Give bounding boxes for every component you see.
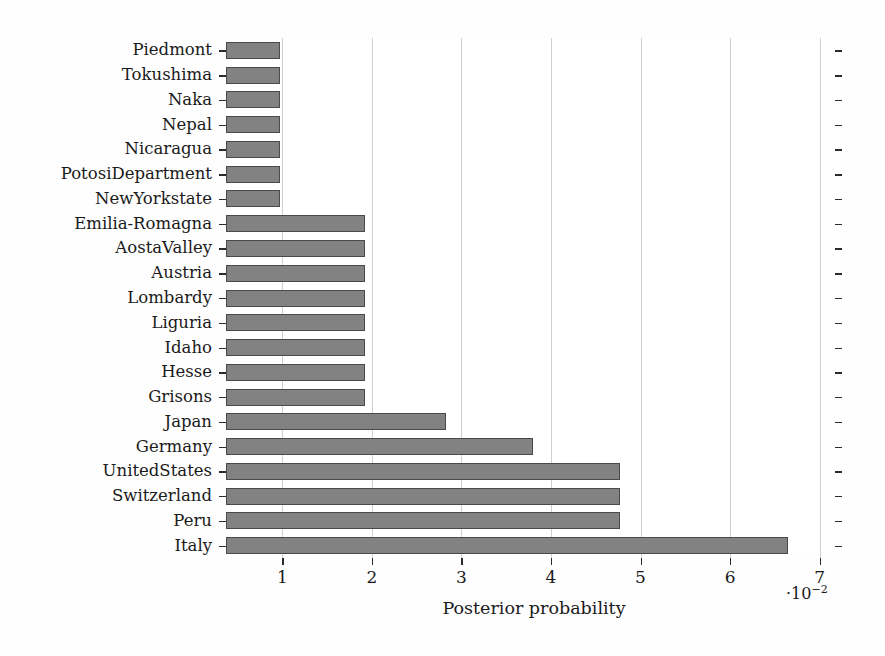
y-tick-label: NewYorkstate bbox=[95, 190, 212, 207]
y-tick-mark bbox=[219, 496, 226, 497]
y-tick-mark bbox=[219, 100, 226, 101]
x-axis-exponent-label: ·10−2 bbox=[786, 583, 828, 603]
y-tick-label: Italy bbox=[174, 537, 212, 554]
right-tick-mark bbox=[835, 125, 842, 126]
y-tick-mark bbox=[219, 447, 226, 448]
y-tick-label: Nepal bbox=[162, 116, 212, 133]
x-tick-label: 6 bbox=[725, 567, 736, 587]
y-axis-labels: PiedmontTokushimaNakaNepalNicaraguaPotos… bbox=[0, 38, 212, 558]
y-tick-mark bbox=[219, 50, 226, 51]
y-tick-label: UnitedStates bbox=[103, 462, 212, 479]
y-tick-label: Japan bbox=[165, 413, 212, 430]
right-tick-mark bbox=[835, 298, 842, 299]
y-tick-mark bbox=[219, 372, 226, 373]
y-tick-mark bbox=[219, 471, 226, 472]
y-tick-mark bbox=[219, 323, 226, 324]
y-tick-mark bbox=[219, 248, 226, 249]
y-tick-mark bbox=[219, 422, 226, 423]
right-tick-mark bbox=[835, 75, 842, 76]
x-tick-label: 2 bbox=[367, 567, 378, 587]
x-tick-label: 3 bbox=[456, 567, 467, 587]
x-tick-mark bbox=[820, 558, 821, 565]
y-tick-label: Nicaragua bbox=[124, 140, 212, 157]
right-tick-mark bbox=[835, 199, 842, 200]
y-tick-mark bbox=[219, 521, 226, 522]
right-tick-mark bbox=[835, 496, 842, 497]
right-tick-mark bbox=[835, 248, 842, 249]
y-tick-label: Germany bbox=[136, 438, 212, 455]
y-tick-mark bbox=[219, 174, 226, 175]
right-tick-mark bbox=[835, 50, 842, 51]
right-tick-mark bbox=[835, 372, 842, 373]
x-tick-mark bbox=[372, 558, 373, 565]
right-tick-mark bbox=[835, 348, 842, 349]
y-tick-label: Lombardy bbox=[127, 289, 212, 306]
y-tick-mark bbox=[219, 397, 226, 398]
x-tick-mark bbox=[461, 558, 462, 565]
y-tick-label: Tokushima bbox=[122, 66, 212, 83]
right-tick-mark bbox=[835, 174, 842, 175]
y-tick-label: AostaValley bbox=[115, 239, 212, 256]
y-tick-label: Hesse bbox=[161, 363, 212, 380]
x-axis-label: Posterior probability bbox=[226, 598, 842, 618]
y-tick-label: Austria bbox=[151, 264, 212, 281]
right-axis-tick-marks bbox=[226, 38, 842, 558]
y-tick-mark bbox=[219, 348, 226, 349]
right-tick-mark bbox=[835, 100, 842, 101]
x-tick-mark bbox=[641, 558, 642, 565]
right-tick-mark bbox=[835, 397, 842, 398]
right-tick-mark bbox=[835, 273, 842, 274]
y-tick-mark bbox=[219, 199, 226, 200]
y-tick-mark bbox=[219, 224, 226, 225]
right-tick-mark bbox=[835, 149, 842, 150]
right-tick-mark bbox=[835, 447, 842, 448]
y-tick-label: Grisons bbox=[148, 388, 212, 405]
y-tick-label: PotosiDepartment bbox=[61, 165, 212, 182]
y-tick-mark bbox=[219, 273, 226, 274]
right-tick-mark bbox=[835, 422, 842, 423]
right-tick-mark bbox=[835, 546, 842, 547]
bar-chart-figure: PiedmontTokushimaNakaNepalNicaraguaPotos… bbox=[0, 0, 885, 656]
exponent-base: ·10 bbox=[786, 584, 811, 603]
y-tick-label: Switzerland bbox=[112, 487, 212, 504]
x-tick-mark bbox=[282, 558, 283, 565]
y-tick-mark bbox=[219, 125, 226, 126]
y-tick-label: Liguria bbox=[152, 314, 212, 331]
right-tick-mark bbox=[835, 521, 842, 522]
x-tick-mark bbox=[551, 558, 552, 565]
y-tick-mark bbox=[219, 149, 226, 150]
right-tick-mark bbox=[835, 224, 842, 225]
right-tick-mark bbox=[835, 471, 842, 472]
x-tick-label: 1 bbox=[277, 567, 288, 587]
x-tick-label: 4 bbox=[546, 567, 557, 587]
x-tick-label: 5 bbox=[635, 567, 646, 587]
y-tick-label: Naka bbox=[168, 91, 212, 108]
right-tick-mark bbox=[835, 323, 842, 324]
y-tick-label: Emilia-Romagna bbox=[74, 215, 212, 232]
y-tick-mark bbox=[219, 546, 226, 547]
y-tick-label: Piedmont bbox=[132, 41, 212, 58]
y-tick-mark bbox=[219, 298, 226, 299]
y-tick-label: Peru bbox=[173, 512, 212, 529]
y-tick-mark bbox=[219, 75, 226, 76]
x-tick-mark bbox=[730, 558, 731, 565]
y-tick-label: Idaho bbox=[165, 339, 212, 356]
x-axis-ticks: 1234567 bbox=[226, 558, 842, 598]
exponent-power: −2 bbox=[811, 583, 827, 596]
